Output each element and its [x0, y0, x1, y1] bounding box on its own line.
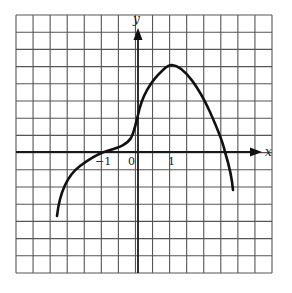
- x-axis-arrow-icon: [250, 148, 262, 157]
- y-axis-arrow-icon: [134, 28, 143, 40]
- y-axis-label: y: [132, 12, 140, 26]
- tick-label-0: 0: [128, 155, 135, 168]
- function-graph: x y −1 0 1: [0, 0, 292, 293]
- grid: [16, 15, 272, 273]
- function-curve: [57, 65, 233, 216]
- tick-label-neg1: −1: [95, 155, 111, 168]
- tick-label-1: 1: [168, 155, 175, 168]
- x-axis-label: x: [265, 145, 272, 159]
